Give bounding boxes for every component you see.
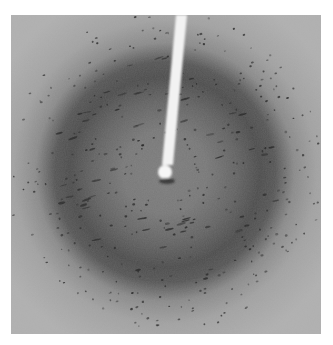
beamstop-cap — [158, 165, 172, 179]
diffraction-pattern — [11, 15, 321, 334]
beamstop-shadow — [159, 178, 175, 184]
diffraction-image — [11, 15, 321, 334]
